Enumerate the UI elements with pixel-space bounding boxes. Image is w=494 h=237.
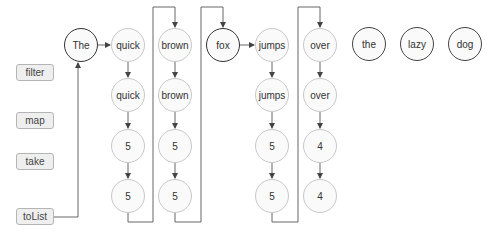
node-over-filter: over xyxy=(303,28,337,62)
op-label-map: map xyxy=(16,112,54,129)
node-brown-map: brown xyxy=(158,78,192,112)
node-the-unprocessed: the xyxy=(352,27,386,61)
node-quick-map: quick xyxy=(111,78,145,112)
op-label-toList: toList xyxy=(16,208,54,225)
node-jumps-tolist: 5 xyxy=(255,179,289,213)
op-label-filter: filter xyxy=(16,64,54,81)
node-jumps-take: 5 xyxy=(255,129,289,163)
node-quick-filter: quick xyxy=(111,28,145,62)
node-brown-filter: brown xyxy=(158,28,192,62)
node-over-tolist: 4 xyxy=(303,179,337,213)
node-brown-take: 5 xyxy=(158,129,192,163)
toList-to-source-connector xyxy=(54,63,78,217)
node-jumps-filter: jumps xyxy=(255,28,289,62)
node-fox-source: fox xyxy=(206,28,240,62)
node-the-source: The xyxy=(64,28,98,62)
node-over-map: over xyxy=(303,78,337,112)
node-quick-take: 5 xyxy=(111,129,145,163)
node-dog-unprocessed: dog xyxy=(448,27,482,61)
node-brown-tolist: 5 xyxy=(158,179,192,213)
op-label-take: take xyxy=(16,153,54,170)
node-quick-tolist: 5 xyxy=(111,179,145,213)
node-over-take: 4 xyxy=(303,129,337,163)
node-jumps-map: jumps xyxy=(255,78,289,112)
node-lazy-unprocessed: lazy xyxy=(400,27,434,61)
